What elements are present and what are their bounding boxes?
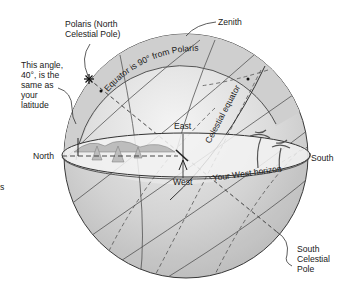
south-celestial-pole-label: South Celestial Pole (297, 244, 330, 274)
east-label: East (174, 121, 191, 131)
zenith-label: Zenith (218, 17, 242, 27)
south-label: South (311, 153, 333, 163)
west-label: West (173, 177, 192, 187)
south-pole-leader (277, 232, 292, 266)
polaris-label: Polaris (North Celestial Pole) (65, 19, 120, 39)
left-edge-fragment: s (0, 182, 4, 192)
polaris-star-icon (84, 74, 94, 84)
polaris-leader (84, 44, 90, 76)
latitude-angle-note: This angle, 40°, is the same as your lat… (21, 60, 63, 110)
north-label: North (33, 151, 54, 161)
